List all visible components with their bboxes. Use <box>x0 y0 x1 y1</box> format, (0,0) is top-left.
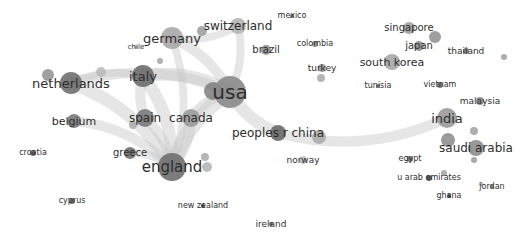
label-peoples-r-china: peoples r china <box>232 127 324 139</box>
unlabeled-node[interactable] <box>317 74 325 82</box>
label-turkey: turkey <box>308 64 337 73</box>
label-chile: chile <box>128 44 144 51</box>
label-switzerland: switzerland <box>204 20 273 32</box>
label-greece: greece <box>113 148 147 158</box>
label-u-arab-emirates: u arab emirates <box>397 174 461 182</box>
unlabeled-node[interactable] <box>471 157 477 163</box>
label-vietnam: vietnam <box>424 81 457 89</box>
label-ireland: ireland <box>256 220 287 229</box>
unlabeled-node[interactable] <box>470 127 478 135</box>
label-new-zealand: new zealand <box>178 202 228 210</box>
label-saudi-arabia: saudi arabia <box>439 142 513 154</box>
label-egypt: egypt <box>399 155 422 163</box>
label-canada: canada <box>169 112 213 124</box>
label-tunisia: tunisia <box>365 82 392 90</box>
label-norway: norway <box>286 156 319 165</box>
unlabeled-node[interactable] <box>501 54 507 60</box>
label-south-korea: south korea <box>360 57 425 68</box>
label-mexico: mexico <box>278 12 307 20</box>
label-colombia: colombia <box>297 40 333 48</box>
network-canvas: usaenglandgermanyitalynetherlandsspainca… <box>0 0 516 237</box>
label-malaysia: malaysia <box>460 97 500 106</box>
label-japan: japan <box>405 41 433 51</box>
label-belgium: belgium <box>52 116 97 127</box>
label-germany: germany <box>143 32 201 45</box>
label-usa: usa <box>212 82 247 102</box>
label-spain: spain <box>129 112 161 124</box>
label-england: england <box>142 160 203 175</box>
label-jordan: jordan <box>479 183 504 191</box>
label-thailand: thailand <box>448 47 485 56</box>
label-italy: italy <box>129 70 157 83</box>
label-brazil: brazil <box>252 45 279 55</box>
label-netherlands: netherlands <box>32 77 110 90</box>
label-croatia: croatia <box>19 149 47 157</box>
label-singapore: singapore <box>384 23 433 33</box>
label-ghana: ghana <box>436 192 461 200</box>
unlabeled-node[interactable] <box>157 58 163 64</box>
label-cyprus: cyprus <box>59 197 86 205</box>
label-india: india <box>431 112 463 125</box>
unlabeled-node[interactable] <box>202 162 212 172</box>
